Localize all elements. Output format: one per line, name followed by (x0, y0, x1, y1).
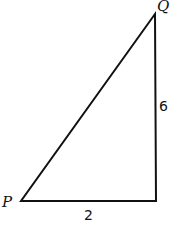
vertex-label-q: Q (157, 0, 169, 15)
right-triangle (21, 14, 156, 201)
vertex-label-p: P (1, 193, 13, 211)
triangle-diagram: Q P 6 2 (0, 0, 177, 231)
side-label-vertical: 6 (159, 98, 168, 114)
side-label-horizontal: 2 (84, 207, 93, 223)
